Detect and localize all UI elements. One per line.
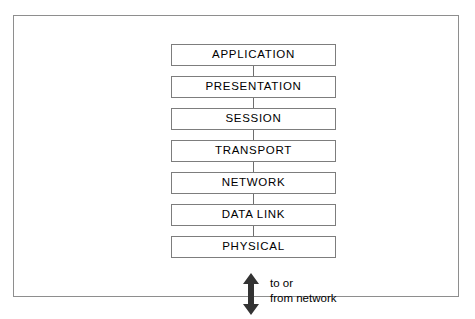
layer-label: APPLICATION xyxy=(212,49,295,61)
layer-box-physical[interactable]: PHYSICAL xyxy=(171,236,336,258)
layer-row: SESSION xyxy=(171,108,336,130)
double-headed-vertical-arrow-icon xyxy=(242,273,260,315)
layer-connector xyxy=(253,162,254,172)
layer-row: APPLICATION xyxy=(171,44,336,66)
layer-row: PRESENTATION xyxy=(171,76,336,98)
layer-connector xyxy=(253,194,254,204)
layer-box-network[interactable]: NETWORK xyxy=(171,172,336,194)
network-caption-line-2: from network xyxy=(270,291,336,306)
layer-row: NETWORK xyxy=(171,172,336,194)
layer-connector xyxy=(253,226,254,236)
layer-connector xyxy=(253,66,254,76)
network-caption: to or from network xyxy=(270,276,336,306)
layer-box-transport[interactable]: TRANSPORT xyxy=(171,140,336,162)
figure-frame: APPLICATION PRESENTATION SESSION TRANSPO… xyxy=(13,15,459,297)
layer-box-data-link[interactable]: DATA LINK xyxy=(171,204,336,226)
layer-row: TRANSPORT xyxy=(171,140,336,162)
osi-layer-stack: APPLICATION PRESENTATION SESSION TRANSPO… xyxy=(171,44,336,258)
layer-box-session[interactable]: SESSION xyxy=(171,108,336,130)
layer-box-presentation[interactable]: PRESENTATION xyxy=(171,76,336,98)
layer-connector xyxy=(253,98,254,108)
layer-label: SESSION xyxy=(225,113,281,125)
layer-label: PRESENTATION xyxy=(205,81,301,93)
layer-label: PHYSICAL xyxy=(222,241,284,253)
layer-box-application[interactable]: APPLICATION xyxy=(171,44,336,66)
layer-row: PHYSICAL xyxy=(171,236,336,258)
network-caption-line-1: to or xyxy=(270,276,336,291)
layer-label: DATA LINK xyxy=(222,209,285,221)
layer-connector xyxy=(253,130,254,140)
network-link-group: to or from network xyxy=(171,271,401,319)
layer-label: NETWORK xyxy=(222,177,286,189)
layer-row: DATA LINK xyxy=(171,204,336,226)
layer-label: TRANSPORT xyxy=(215,145,292,157)
